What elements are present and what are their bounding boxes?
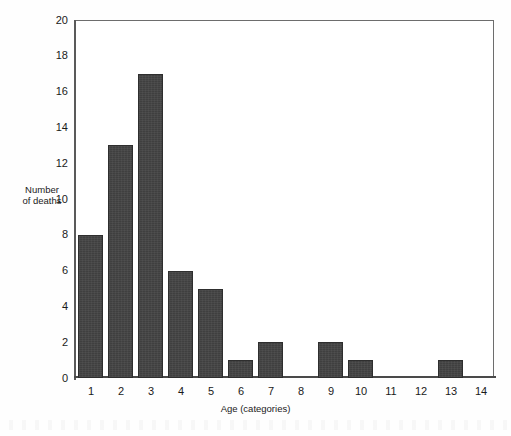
- bar[interactable]: [168, 271, 193, 378]
- x-axis-title: Age (categories): [0, 403, 511, 414]
- y-axis-tick-labels: 02468101214161820: [38, 0, 68, 436]
- x-tick-label: 14: [466, 384, 496, 398]
- bar[interactable]: [198, 289, 223, 379]
- y-axis-title: Number of deaths: [14, 184, 70, 206]
- bar-slot: [346, 20, 376, 378]
- bar-slot: [196, 20, 226, 378]
- y-tick-label: 0: [44, 373, 68, 384]
- y-tick-label: 8: [44, 229, 68, 240]
- y-axis-title-line-2: of deaths: [14, 195, 70, 206]
- bar-slot: [406, 20, 436, 378]
- y-tick-label: 16: [44, 86, 68, 97]
- y-tick-label: 20: [44, 15, 68, 26]
- bar-slot: [166, 20, 196, 378]
- x-tick-label: 6: [226, 384, 256, 398]
- bar-series: [74, 20, 494, 378]
- bar[interactable]: [228, 360, 253, 378]
- y-tick-label: 6: [44, 265, 68, 276]
- bar[interactable]: [108, 145, 133, 378]
- scan-noise-artifact: [0, 420, 511, 430]
- y-tick-label: 2: [44, 337, 68, 348]
- bar-slot: [106, 20, 136, 378]
- x-tick-label: 3: [136, 384, 166, 398]
- y-tick-label: 18: [44, 50, 68, 61]
- x-tick-label: 2: [106, 384, 136, 398]
- x-tick-label: 10: [346, 384, 376, 398]
- y-tick-label: 12: [44, 158, 68, 169]
- bar-slot: [76, 20, 106, 378]
- bar-slot: [376, 20, 406, 378]
- x-tick-label: 8: [286, 384, 316, 398]
- y-tick-label: 14: [44, 122, 68, 133]
- x-tick-label: 13: [436, 384, 466, 398]
- bar-chart-figure: 02468101214161820 Number of deaths 12345…: [0, 0, 511, 436]
- y-axis-title-line-1: Number: [14, 184, 70, 195]
- bar-slot: [286, 20, 316, 378]
- x-tick-label: 1: [76, 384, 106, 398]
- bar[interactable]: [318, 342, 343, 378]
- bar[interactable]: [348, 360, 373, 378]
- bar[interactable]: [258, 342, 283, 378]
- bar[interactable]: [78, 235, 103, 378]
- bar-slot: [436, 20, 466, 378]
- bar-slot: [226, 20, 256, 378]
- x-axis-tick-labels: 1234567891011121314: [74, 384, 494, 400]
- bar-slot: [256, 20, 286, 378]
- bar-slot: [466, 20, 496, 378]
- x-tick-label: 4: [166, 384, 196, 398]
- bar-slot: [136, 20, 166, 378]
- y-tick-label: 4: [44, 301, 68, 312]
- x-tick-label: 7: [256, 384, 286, 398]
- x-tick-label: 12: [406, 384, 436, 398]
- bar-slot: [316, 20, 346, 378]
- bar[interactable]: [438, 360, 463, 378]
- x-tick-label: 9: [316, 384, 346, 398]
- x-tick-label: 11: [376, 384, 406, 398]
- x-tick-label: 5: [196, 384, 226, 398]
- bar[interactable]: [138, 74, 163, 378]
